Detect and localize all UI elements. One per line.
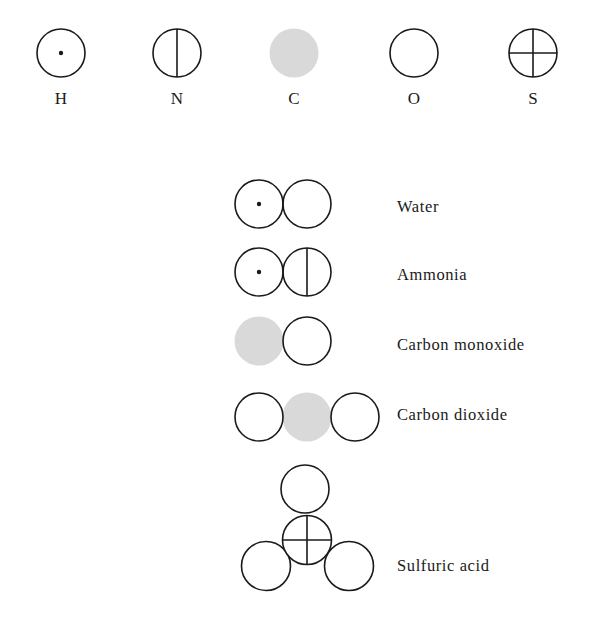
element-label-h: H (55, 89, 67, 109)
molecule-label-carbon-monoxide: Carbon monoxide (397, 335, 525, 355)
molecule-label-sulfuric-acid: Sulfuric acid (397, 556, 490, 576)
element-label-s: S (528, 89, 537, 109)
hydrogen-symbol-icon (37, 29, 85, 77)
element-label-o: O (408, 89, 420, 109)
element-label-c: C (288, 89, 299, 109)
carbon-symbol-icon (270, 29, 319, 78)
molecule-label-ammonia: Ammonia (397, 265, 467, 285)
molecule-label-carbon-dioxide: Carbon dioxide (397, 405, 508, 425)
ammonia-molecule-icon (235, 248, 331, 296)
element-label-n: N (171, 89, 183, 109)
carbon-monoxide-molecule-icon (235, 317, 332, 366)
oxygen-symbol-icon (390, 29, 438, 77)
molecule-label-water: Water (397, 197, 439, 217)
sulfur-symbol-icon (509, 29, 557, 77)
water-molecule-icon (235, 180, 331, 228)
nitrogen-symbol-icon (153, 29, 201, 77)
carbon-dioxide-molecule-icon (235, 393, 379, 442)
sulfuric-acid-molecule-icon (242, 465, 374, 591)
